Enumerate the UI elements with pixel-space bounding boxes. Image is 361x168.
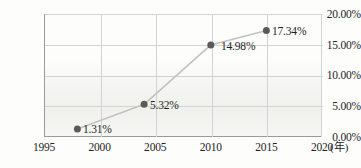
gridline-2000 (101, 14, 102, 137)
y-tick-label-10: 10.00% (319, 69, 361, 81)
plot-frame-top (45, 14, 323, 15)
x-axis-unit-label: (年) (330, 141, 348, 154)
gridline-10 (45, 76, 323, 77)
gridline-2005 (156, 14, 157, 137)
line-chart: 20.00% 15.00% 10.00% 5.00% 0.00% 1.31% 5… (0, 0, 361, 168)
gridline-15 (45, 45, 323, 46)
data-point-label-2010: 14.98% (221, 40, 255, 52)
x-tick-label-2000: 2000 (70, 141, 130, 154)
gridline-2015 (267, 14, 268, 137)
gridline-2010 (212, 14, 213, 137)
x-tick-label-1995: 1995 (14, 141, 74, 154)
data-point-label-1998: 1.31% (83, 123, 112, 135)
x-tick-label-2010: 2010 (181, 141, 241, 154)
y-tick-label-15: 15.00% (319, 39, 361, 51)
data-point-label-2004: 5.32% (150, 99, 179, 111)
x-tick-label-2005: 2005 (125, 141, 185, 154)
y-tick-label-20: 20.00% (319, 8, 361, 20)
data-point-label-2015: 17.34% (272, 25, 306, 37)
x-tick-label-2015: 2015 (236, 141, 296, 154)
y-tick-label-5: 5.00% (319, 100, 361, 112)
gridline-5 (45, 106, 323, 107)
